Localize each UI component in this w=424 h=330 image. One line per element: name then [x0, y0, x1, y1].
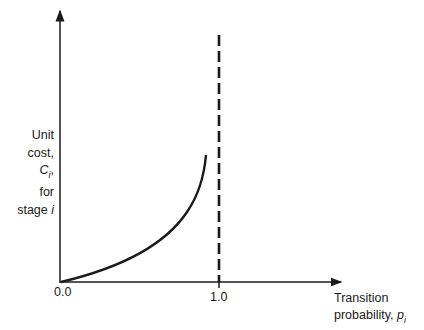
y-label-symbol: Ci,: [17, 162, 54, 184]
y-label-line: cost,: [17, 145, 54, 163]
x-axis-label: Transition probability, pi: [334, 290, 406, 329]
y-label-line: for: [17, 184, 54, 202]
subscript-i: i: [49, 170, 51, 180]
x-tick-label-0: 0.0: [54, 285, 71, 299]
symbol-p: p: [397, 308, 404, 322]
subscript-i: i: [404, 315, 406, 325]
x-label-line: Transition: [334, 290, 406, 307]
stage-text: stage: [17, 203, 51, 217]
y-label-stage: stage i: [17, 202, 54, 220]
prob-text: probability,: [334, 308, 397, 322]
y-axis-label: Unit cost, Ci, for stage i: [17, 127, 54, 219]
x-label-prob: probability, pi: [334, 307, 406, 329]
chart-canvas: [0, 0, 424, 330]
cost-curve: [61, 155, 206, 282]
symbol-i: i: [51, 203, 54, 217]
symbol-c: C: [39, 163, 48, 177]
x-tick-label-1: 1.0: [210, 290, 227, 304]
y-label-line: Unit: [17, 127, 54, 145]
